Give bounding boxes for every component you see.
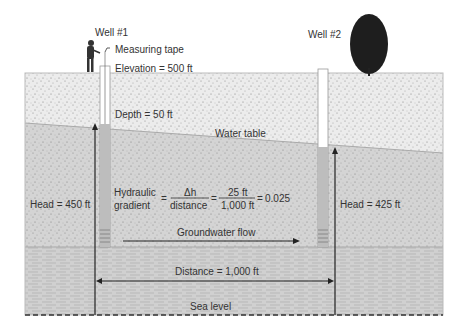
elevation-label: Elevation = 500 ft <box>115 64 193 74</box>
well-2-label: Well #2 <box>308 30 341 40</box>
groundwater-flow-label: Groundwater flow <box>177 228 255 238</box>
diagram-canvas <box>0 0 465 334</box>
tree-icon <box>350 14 388 76</box>
measuring-tape-label: Measuring tape <box>115 45 184 55</box>
formula-eq3: = <box>257 194 263 204</box>
distance-label: Distance = 1,000 ft <box>175 267 259 277</box>
well-2 <box>318 69 328 247</box>
formula-result: 0.025 <box>265 194 290 204</box>
formula-den2: 1,000 ft <box>221 201 254 211</box>
head-2-label: Head = 425 ft <box>340 200 400 210</box>
formula-num1: Δh <box>184 188 196 198</box>
formula-eq1: = <box>161 194 167 204</box>
measuring-tape-icon <box>105 48 110 52</box>
well-1-label: Well #1 <box>95 28 128 38</box>
person-icon <box>87 40 100 72</box>
formula-term-top: Hydraulic <box>114 188 156 198</box>
depth-label: Depth = 50 ft <box>115 110 173 120</box>
sea-level-label: Sea level <box>190 302 231 312</box>
head-1-label: Head = 450 ft <box>30 200 90 210</box>
formula-term-bottom: gradient <box>114 201 150 211</box>
formula-num2: 25 ft <box>228 188 247 198</box>
formula-eq2: = <box>211 194 217 204</box>
formula-den1: distance <box>170 201 207 211</box>
water-table-label: Water table <box>215 129 266 139</box>
